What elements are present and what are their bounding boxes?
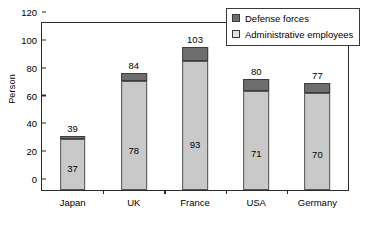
bar-japan[interactable]: 3739 — [60, 136, 86, 190]
y-axis-tick-label: 100 — [21, 34, 37, 45]
y-axis-tick-40: 40 — [26, 118, 42, 129]
bar-segment-administrative[interactable]: 70 — [305, 93, 331, 190]
bar-segment-administrative[interactable]: 93 — [182, 61, 208, 190]
x-axis-category-usa: USA — [246, 197, 266, 208]
legend-item-administrative-employees[interactable]: Administrative employees — [232, 29, 353, 40]
bar-total-label: 39 — [60, 123, 86, 134]
x-axis-tick — [287, 190, 288, 194]
x-axis-category-uk: UK — [127, 197, 140, 208]
y-axis-tick-label: 120 — [21, 7, 37, 18]
x-axis-category-france: France — [180, 197, 210, 208]
bar-segment-defense[interactable] — [305, 83, 331, 93]
y-axis-tick-20: 20 — [26, 146, 42, 157]
bar-uk[interactable]: 7884 — [121, 73, 147, 190]
x-axis-tick — [103, 190, 104, 194]
bar-segment-administrative[interactable]: 37 — [60, 139, 86, 190]
bar-usa[interactable]: 7180 — [243, 79, 269, 190]
bar-value-label-administrative: 70 — [306, 149, 330, 160]
x-axis-category-japan: Japan — [60, 197, 86, 208]
y-axis-tick-label: 40 — [26, 118, 37, 129]
legend-label-administrative: Administrative employees — [245, 29, 353, 40]
bar-total-label: 77 — [305, 70, 331, 81]
y-axis-tick-120: 120 — [21, 7, 42, 18]
bar-france[interactable]: 93103 — [182, 47, 208, 190]
bar-segment-defense[interactable] — [243, 79, 269, 92]
y-axis-tick-label: 60 — [26, 90, 37, 101]
stacked-bar-chart: Person 0204060801001203739Japan7884UK931… — [0, 0, 374, 229]
y-axis-tick-label: 20 — [26, 146, 37, 157]
y-axis-tick-mark — [42, 39, 46, 40]
chart-legend: Defense forces Administrative employees — [226, 8, 360, 46]
bar-value-label-administrative: 37 — [61, 163, 85, 174]
bar-segment-defense[interactable] — [121, 73, 147, 81]
y-axis-tick-0: 0 — [32, 174, 42, 185]
x-axis-category-germany: Germany — [298, 197, 337, 208]
plot-area: 0204060801001203739Japan7884UK93103Franc… — [41, 22, 349, 191]
bar-segment-administrative[interactable]: 78 — [121, 81, 147, 190]
bar-total-label: 80 — [243, 66, 269, 77]
y-axis-tick-mark — [42, 11, 46, 12]
bar-segment-administrative[interactable]: 71 — [243, 91, 269, 190]
legend-item-defense-forces[interactable]: Defense forces — [232, 13, 353, 24]
x-axis-tick — [164, 190, 165, 194]
bar-total-label: 84 — [121, 60, 147, 71]
bar-value-label-administrative: 78 — [122, 145, 146, 156]
x-axis-tick — [226, 190, 227, 194]
y-axis-tick-mark — [42, 123, 46, 124]
y-axis-tick-60: 60 — [26, 90, 42, 101]
legend-label-defense: Defense forces — [245, 13, 309, 24]
y-axis-label: Person — [7, 59, 17, 119]
y-axis-tick-mark — [42, 178, 46, 179]
y-axis-tick-mark — [42, 67, 46, 68]
bar-segment-defense[interactable] — [182, 47, 208, 61]
bar-segment-defense[interactable] — [60, 136, 86, 139]
bar-total-label: 103 — [182, 34, 208, 45]
legend-swatch-administrative-icon — [232, 30, 240, 38]
y-axis-tick-label: 0 — [32, 174, 37, 185]
y-axis-tick-mark — [42, 95, 46, 96]
legend-swatch-defense-icon — [232, 14, 240, 22]
y-axis-tick-80: 80 — [26, 62, 42, 73]
bar-value-label-administrative: 71 — [244, 148, 268, 159]
y-axis-tick-mark — [42, 151, 46, 152]
y-axis-tick-100: 100 — [21, 34, 42, 45]
bar-value-label-administrative: 93 — [183, 139, 207, 150]
bar-germany[interactable]: 7077 — [305, 83, 331, 190]
y-axis-tick-label: 80 — [26, 62, 37, 73]
